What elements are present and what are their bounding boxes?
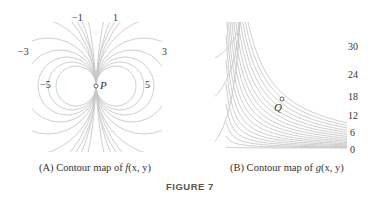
- level-label: 24: [348, 70, 358, 80]
- level-label: 0: [350, 145, 355, 155]
- level-label: 6: [350, 128, 355, 138]
- level-label: 1: [113, 13, 118, 23]
- level-label: −5: [40, 80, 51, 90]
- level-label: 5: [145, 80, 150, 90]
- level-label: 3: [162, 47, 167, 57]
- point-p-marker: [94, 84, 98, 88]
- point-q-label: Q: [274, 102, 282, 113]
- point-p-label: P: [100, 80, 107, 91]
- contour-map-g: [182, 0, 376, 150]
- level-label: −1: [72, 13, 83, 23]
- level-label: −3: [18, 47, 29, 57]
- level-label: 30: [348, 42, 358, 52]
- level-label: 18: [348, 92, 358, 102]
- figure-label: FIGURE 7: [166, 181, 214, 192]
- level-label: 12: [348, 111, 358, 121]
- caption-a: (A) Contour map of f(x, y): [39, 162, 151, 173]
- caption-b: (B) Contour map of g(x, y): [230, 162, 344, 173]
